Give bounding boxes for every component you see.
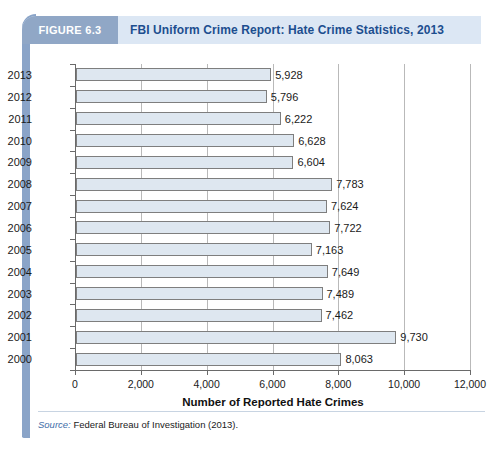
y-tick-label-2006: 2006 [0, 222, 32, 234]
source-divider [38, 411, 485, 412]
gridline-12000 [470, 64, 471, 370]
y-tick-label-2000: 2000 [0, 353, 32, 365]
bar-value-2013: 5,928 [275, 69, 303, 81]
gridline-4000 [207, 64, 208, 370]
y-tick-mark [70, 326, 75, 327]
bar-value-2003: 7,489 [327, 288, 355, 300]
bar-2011 [76, 112, 281, 125]
gridline-6000 [273, 64, 274, 370]
bar-2006 [76, 221, 330, 234]
y-tick-mark [70, 304, 75, 305]
bar-value-2007: 7,624 [331, 200, 359, 212]
bar-value-2009: 6,604 [297, 156, 325, 168]
y-tick-label-2003: 2003 [0, 288, 32, 300]
x-tick-mark [207, 370, 208, 375]
y-axis-line [75, 64, 76, 370]
bar-2008 [76, 178, 332, 191]
bar-value-2004: 7,649 [332, 266, 360, 278]
bar-value-2005: 7,163 [316, 244, 344, 256]
bar-2010 [76, 134, 294, 147]
y-tick-mark [70, 239, 75, 240]
gridline-10000 [404, 64, 405, 370]
x-tick-mark [404, 370, 405, 375]
y-tick-label-2010: 2010 [0, 135, 32, 147]
y-tick-mark [70, 370, 75, 371]
bar-2001 [76, 331, 396, 344]
bar-2003 [76, 287, 323, 300]
source-text: Federal Bureau of Investigation (2013). [73, 419, 238, 430]
x-tick-mark [338, 370, 339, 375]
bar-2002 [76, 309, 322, 322]
y-tick-mark [70, 108, 75, 109]
y-tick-label-2001: 2001 [0, 331, 32, 343]
bar-2012 [76, 90, 267, 103]
y-tick-mark [70, 86, 75, 87]
source-note: Source: Federal Bureau of Investigation … [38, 419, 238, 430]
y-tick-label-2009: 2009 [0, 156, 32, 168]
chart-canvas: 5,9285,7966,2226,6286,6047,7837,6247,722… [36, 56, 486, 396]
y-tick-label-2013: 2013 [0, 69, 32, 81]
figure-number-label: FIGURE 6.3 [39, 24, 102, 36]
y-tick-mark [70, 195, 75, 196]
y-tick-label-2007: 2007 [0, 200, 32, 212]
source-label: Source: [38, 419, 71, 430]
figure-title: FBI Uniform Crime Report: Hate Crime Sta… [130, 16, 444, 44]
bar-value-2006: 7,722 [334, 222, 362, 234]
y-tick-label-2012: 2012 [0, 91, 32, 103]
x-tick-label: 4,000 [194, 378, 220, 390]
bar-value-2002: 7,462 [326, 309, 354, 321]
x-tick-label: 12,000 [454, 378, 486, 390]
bar-value-2001: 9,730 [400, 331, 428, 343]
y-tick-label-2005: 2005 [0, 244, 32, 256]
x-tick-mark [75, 370, 76, 375]
y-tick-mark [70, 348, 75, 349]
x-tick-label: 10,000 [388, 378, 420, 390]
x-tick-label: 0 [72, 378, 78, 390]
y-tick-mark [70, 217, 75, 218]
x-tick-mark [470, 370, 471, 375]
x-tick-label: 8,000 [325, 378, 351, 390]
x-tick-label: 2,000 [128, 378, 154, 390]
y-tick-label-2002: 2002 [0, 309, 32, 321]
y-tick-mark [70, 64, 75, 65]
bar-value-2010: 6,628 [298, 135, 326, 147]
y-tick-mark [70, 151, 75, 152]
y-tick-label-2008: 2008 [0, 178, 32, 190]
bar-2004 [76, 265, 328, 278]
figure-number-badge: FIGURE 6.3 [22, 16, 118, 44]
bar-value-2008: 7,783 [336, 178, 364, 190]
bar-2013 [76, 68, 271, 81]
bar-2000 [76, 353, 341, 366]
bar-value-2012: 5,796 [271, 91, 299, 103]
x-tick-label: 6,000 [259, 378, 285, 390]
y-tick-mark [70, 130, 75, 131]
gridline-8000 [338, 64, 339, 370]
x-axis-title: Number of Reported Hate Crimes [75, 396, 471, 408]
y-tick-mark [70, 261, 75, 262]
y-tick-label-2011: 2011 [0, 113, 32, 125]
bar-2007 [76, 200, 327, 213]
x-tick-mark [141, 370, 142, 375]
y-tick-label-2004: 2004 [0, 266, 32, 278]
bar-2009 [76, 156, 293, 169]
bar-2005 [76, 243, 312, 256]
y-tick-mark [70, 173, 75, 174]
x-tick-mark [273, 370, 274, 375]
bar-value-2000: 8,063 [345, 353, 373, 365]
gridline-2000 [141, 64, 142, 370]
bar-value-2011: 6,222 [285, 113, 313, 125]
y-tick-mark [70, 283, 75, 284]
